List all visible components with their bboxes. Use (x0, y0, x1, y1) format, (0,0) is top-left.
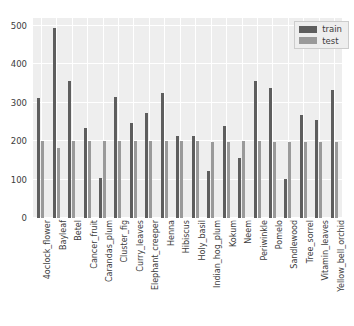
x-tick-label: Vitamin_leaves (322, 220, 330, 281)
bar-chart-figure: 0100200300400500 4oclock_flowerBayleafBe… (0, 0, 354, 326)
legend-label-test: test (322, 37, 338, 46)
x-tick-label: Cluster_fig (121, 220, 129, 263)
bar-test (304, 142, 307, 218)
x-tick-label: 4oclock_flower (44, 220, 52, 279)
bar-test (211, 142, 214, 218)
x-tick-label: Neem (245, 220, 253, 244)
legend-swatch-train (299, 26, 317, 33)
x-tick-label: Cancer_fruit (91, 220, 99, 269)
x-tick-label: Henna (168, 220, 176, 246)
bar-test (227, 142, 230, 218)
y-tick-label: 500 (11, 21, 27, 30)
x-tick-label: Betel (75, 220, 83, 241)
bar-test (288, 142, 291, 218)
y-tick-label: 400 (11, 60, 27, 69)
y-axis: 0100200300400500 (0, 18, 31, 218)
bar-train (130, 123, 133, 218)
x-tick-label: Hibiscus (183, 220, 191, 253)
bar-test (196, 141, 199, 218)
x-tick-label: Pomelo (276, 220, 284, 249)
legend-item-test: test (299, 37, 342, 46)
bar-train (37, 98, 40, 218)
bar-train (315, 120, 318, 218)
x-tick-label: Periwinkle (261, 220, 269, 261)
legend-swatch-test (299, 37, 317, 44)
bar-train (176, 136, 179, 218)
y-tick-label: 200 (11, 137, 27, 146)
bar-test (273, 142, 276, 218)
bar-test (149, 141, 152, 218)
chart-legend: train test (294, 21, 349, 49)
x-tick-label: Bayleaf (60, 220, 68, 250)
bar-train (192, 136, 195, 218)
bar-test (242, 141, 245, 218)
bar-test (88, 141, 91, 218)
bar-test (41, 141, 44, 218)
x-tick-label: Tree_sorrel (307, 220, 315, 263)
bar-test (134, 141, 137, 218)
bar-test (72, 141, 75, 218)
x-tick-label: Kokum (230, 220, 238, 247)
bar-train (207, 171, 210, 218)
x-axis: 4oclock_flowerBayleafBetelCancer_fruitCa… (33, 220, 342, 324)
bar-train (114, 97, 117, 218)
bar-test (165, 141, 168, 218)
legend-label-train: train (322, 25, 342, 34)
bar-test (103, 141, 106, 218)
bar-test (118, 141, 121, 218)
bar-test (57, 148, 60, 218)
x-tick-label: Curry_leaves (137, 220, 145, 272)
bar-test (319, 142, 322, 218)
bar-test (258, 141, 261, 218)
bar-train (84, 128, 87, 218)
bar-test (335, 142, 338, 218)
bar-test (180, 141, 183, 218)
y-tick-label: 300 (11, 98, 27, 107)
x-tick-label: Elephant_creeper (152, 220, 160, 290)
bar-train (238, 158, 241, 218)
x-tick-label: Yellow_bell_orchid (338, 220, 346, 292)
bar-train (68, 81, 71, 218)
bar-train (161, 93, 164, 218)
bar-train (254, 81, 257, 218)
bar-train (269, 88, 272, 218)
bar-train (331, 90, 334, 218)
bar-train (53, 28, 56, 218)
bar-train (145, 113, 148, 218)
x-tick-label: Indian_hog_plum (214, 220, 222, 288)
x-tick-label: Holy_basil (199, 220, 207, 260)
bar-train (223, 126, 226, 218)
x-tick-label: Carandas_plum (106, 220, 114, 282)
y-tick-label: 100 (11, 175, 27, 184)
bar-train (99, 178, 102, 218)
legend-item-train: train (299, 25, 342, 34)
bar-train (284, 179, 287, 218)
y-tick-label: 0 (22, 214, 27, 223)
bar-train (300, 115, 303, 218)
x-tick-label: Sandlewood (291, 220, 299, 269)
